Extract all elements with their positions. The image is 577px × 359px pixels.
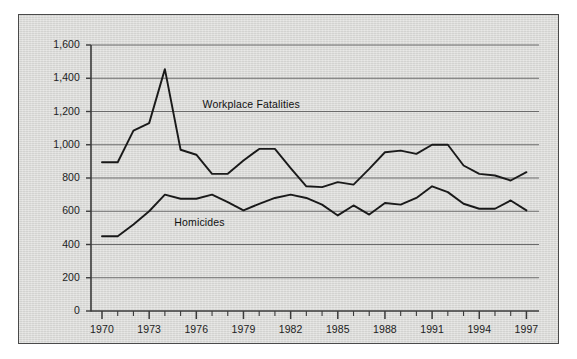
y-axis-tick-label: 800	[62, 171, 80, 183]
x-axis-tick-label: 1997	[496, 323, 556, 335]
y-axis-tick-label: 600	[62, 204, 80, 216]
y-axis-tick-label: 1,200	[53, 105, 80, 117]
y-axis-tick-label: 400	[62, 238, 80, 250]
y-axis-tick-label: 1,000	[53, 138, 80, 150]
y-axis-tick-label: 1,400	[53, 71, 80, 83]
series-label: Workplace Fatalities	[203, 98, 300, 110]
y-axis-tick-label: 200	[62, 271, 80, 283]
line-chart-plot	[19, 15, 560, 345]
series-label: Homicides	[174, 216, 224, 228]
series-line	[102, 69, 526, 187]
y-axis-tick-label: 0	[74, 304, 80, 316]
chart-figure-panel: 02004006008001,0001,2001,4001,6001970197…	[18, 14, 559, 344]
y-axis-tick-label: 1,600	[53, 38, 80, 50]
